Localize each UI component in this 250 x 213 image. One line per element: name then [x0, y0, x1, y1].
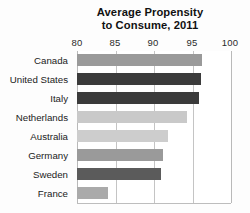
bar-sweden: [77, 168, 161, 180]
bars-layer: [77, 51, 230, 203]
chart-title-line-2: to Consume, 2011: [62, 19, 238, 32]
category-label-italy: Italy: [0, 89, 72, 108]
bar-row: [77, 165, 230, 184]
x-tick-label-100: 100: [222, 37, 238, 48]
category-labels: Canada United States Italy Netherlands A…: [0, 51, 72, 203]
category-label-france: France: [0, 184, 72, 203]
bar-australia: [77, 130, 168, 142]
category-label-sweden: Sweden: [0, 165, 72, 184]
x-tick-label-80: 80: [72, 37, 83, 48]
bar-germany: [77, 149, 163, 161]
bar-row: [77, 146, 230, 165]
bar-italy: [77, 92, 199, 104]
bar-united-states: [77, 73, 201, 85]
bar-row: [77, 108, 230, 127]
x-tick-label-95: 95: [187, 37, 198, 48]
category-label-united-states: United States: [0, 70, 72, 89]
chart-title-line-1: Average Propensity: [62, 6, 238, 19]
chart-figure: Average Propensity to Consume, 2011 80 8…: [0, 0, 250, 213]
category-label-australia: Australia: [0, 127, 72, 146]
x-axis-tick-labels: 80 85 90 95 100: [0, 37, 250, 51]
x-tick-label-90: 90: [148, 37, 159, 48]
chart-title: Average Propensity to Consume, 2011: [62, 6, 238, 32]
category-label-canada: Canada: [0, 51, 72, 70]
bar-france: [77, 187, 108, 199]
category-label-netherlands: Netherlands: [0, 108, 72, 127]
bar-canada: [77, 54, 202, 66]
bar-row: [77, 51, 230, 70]
bar-row: [77, 89, 230, 108]
plot-baseline: [77, 203, 231, 204]
x-tick-label-85: 85: [110, 37, 121, 48]
category-label-germany: Germany: [0, 146, 72, 165]
bar-row: [77, 127, 230, 146]
bar-row: [77, 184, 230, 203]
bar-netherlands: [77, 111, 187, 123]
bar-row: [77, 70, 230, 89]
